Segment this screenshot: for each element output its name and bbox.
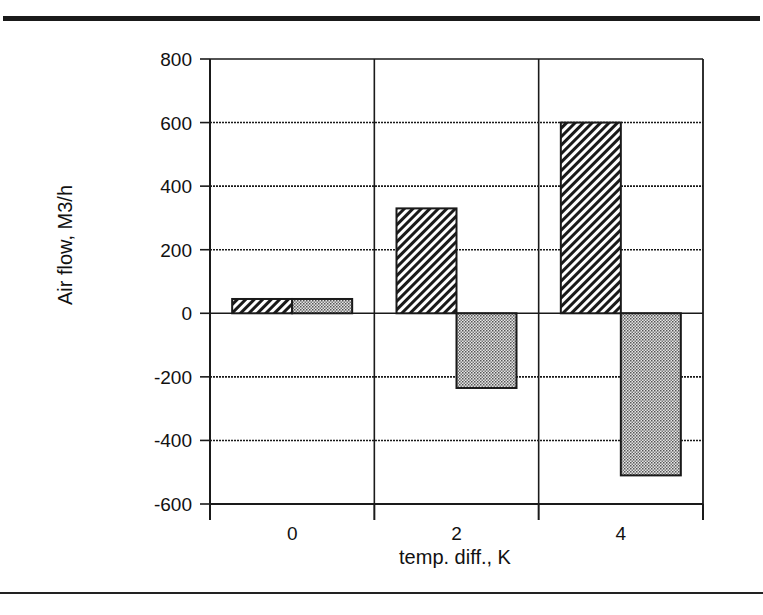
bar-dotted-2 [457, 313, 517, 388]
y-tick-label: 800 [160, 49, 192, 70]
x-tick-label: 4 [616, 523, 627, 544]
y-tick-label: 0 [181, 303, 192, 324]
y-tick-label: -600 [154, 494, 192, 515]
bar-hatched-0 [232, 299, 292, 313]
x-axis-label: temp. diff., K [330, 546, 580, 569]
bottom-rule [0, 592, 763, 594]
bar-dotted-0 [292, 299, 352, 313]
y-axis-label: Air flow, M3/h [50, 145, 80, 345]
y-tick-label: -200 [154, 367, 192, 388]
x-tick-label: 2 [451, 523, 462, 544]
y-tick-label: 200 [160, 240, 192, 261]
bar-chart: 8006004002000-200-400-600024 [0, 0, 763, 615]
y-tick-label: -400 [154, 430, 192, 451]
bars [232, 123, 681, 476]
bar-hatched-2 [397, 208, 457, 313]
y-tick-label: 600 [160, 113, 192, 134]
x-tick-label: 0 [287, 523, 298, 544]
y-tick-label: 400 [160, 176, 192, 197]
bar-hatched-4 [561, 123, 621, 314]
bar-dotted-4 [621, 313, 681, 475]
